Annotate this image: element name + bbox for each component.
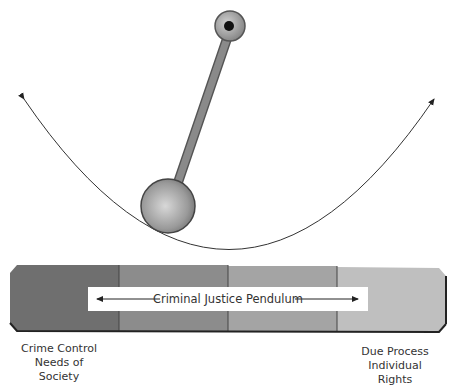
bar-title: Criminal Justice Pendulum <box>88 287 368 311</box>
